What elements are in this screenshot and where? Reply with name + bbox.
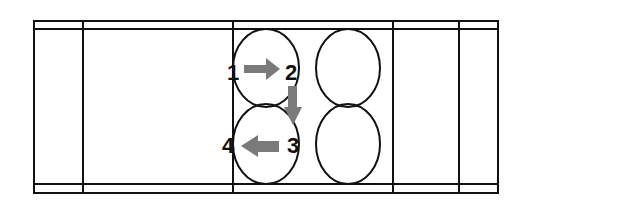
cell-2-circle <box>316 29 380 107</box>
cell-1-label: 1 <box>227 60 239 85</box>
arrow-right-icon <box>244 58 280 80</box>
cell-2-label: 2 <box>285 60 297 85</box>
arrow-left-icon <box>241 135 279 157</box>
arrow-down-icon <box>284 86 302 125</box>
cell-4-label: 4 <box>222 133 235 158</box>
diagram-canvas: 1 2 3 4 <box>0 0 621 203</box>
cell-3-circle <box>316 104 380 184</box>
cells <box>233 29 380 184</box>
cell-3-label: 3 <box>287 133 299 158</box>
